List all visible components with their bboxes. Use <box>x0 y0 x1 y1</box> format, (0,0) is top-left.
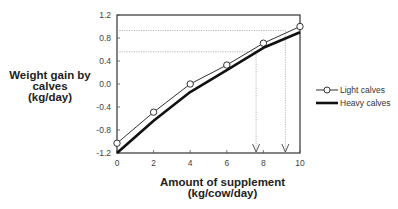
data-point-marker <box>187 81 193 87</box>
data-series <box>114 23 303 153</box>
x-tick-label: 2 <box>151 158 156 168</box>
x-tick-label: 0 <box>115 158 120 168</box>
x-tick-label: 8 <box>261 158 266 168</box>
x-tick-label: 10 <box>295 158 305 168</box>
data-point-marker <box>114 140 120 146</box>
legend: Light calves Heavy calves <box>316 83 391 109</box>
x-axis-label: Amount of supplement (kg/cow/day) <box>140 177 305 199</box>
y-tick-label: 0.8 <box>99 33 111 43</box>
x-tick-label: 4 <box>188 158 193 168</box>
y-axis-label: Weight gain by calves (kg/day) <box>4 70 96 103</box>
data-point-marker <box>297 23 303 29</box>
y-tick-label: -0.8 <box>96 125 111 135</box>
circle-marker-line-icon <box>316 85 338 95</box>
y-tick-label: 0.0 <box>99 79 111 89</box>
thick-line-icon <box>316 98 338 108</box>
y-tick-label: 0.4 <box>99 56 111 66</box>
data-point-marker <box>224 62 230 68</box>
x-axis-label-line: (kg/cow/day) <box>140 188 305 199</box>
legend-item-light-calves: Light calves <box>316 83 391 96</box>
y-axis-label-line: (kg/day) <box>4 92 96 103</box>
series-line-heavy-calves <box>117 32 300 153</box>
legend-label: Heavy calves <box>340 98 391 108</box>
plot-border <box>117 15 300 153</box>
data-point-marker <box>150 109 156 115</box>
y-tick-label: 1.2 <box>99 10 111 20</box>
y-tick-label: -1.2 <box>96 148 111 158</box>
legend-item-heavy-calves: Heavy calves <box>316 96 391 109</box>
legend-label: Light calves <box>340 85 385 95</box>
x-tick-label: 6 <box>224 158 229 168</box>
y-tick-label: -0.4 <box>96 102 111 112</box>
plot-area <box>117 15 300 153</box>
